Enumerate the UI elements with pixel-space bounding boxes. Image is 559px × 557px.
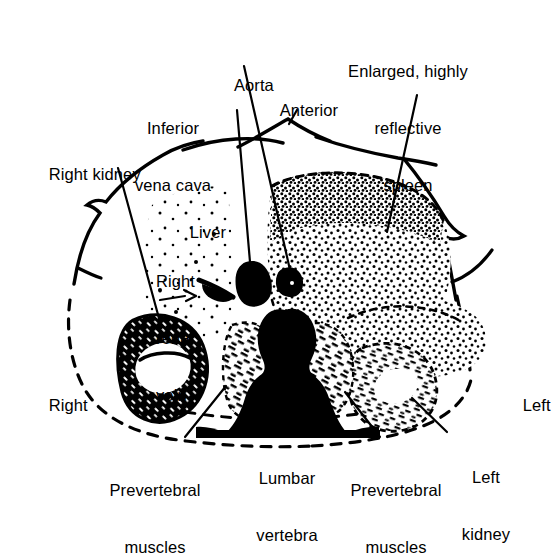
label-prevertebral-muscles-left: Prevertebral muscles bbox=[93, 443, 217, 557]
label-spleen-line1: Enlarged, highly bbox=[331, 62, 485, 81]
label-pvm-left-line1: Prevertebral bbox=[93, 481, 217, 500]
label-right-kidney: Right kidney bbox=[30, 146, 160, 203]
label-rrv-line3: vein bbox=[156, 386, 242, 405]
label-ivc-line1: Inferior bbox=[108, 119, 238, 138]
label-spleen-line2: reflective bbox=[331, 119, 485, 138]
label-lumbar-line2: vertebra bbox=[241, 526, 333, 545]
label-right-renal-vein: Right renal vein bbox=[156, 234, 242, 443]
label-spleen-line3: spleen bbox=[331, 176, 485, 195]
label-rrv-line2: renal bbox=[156, 329, 242, 348]
label-left-kidney-line2: kidney bbox=[440, 525, 532, 544]
label-lumbar-line1: Lumbar bbox=[241, 469, 333, 488]
label-lumbar-vertebra: Lumbar vertebra bbox=[241, 431, 333, 557]
label-left-kidney: Left kidney bbox=[440, 430, 532, 557]
label-right-orientation: Right bbox=[30, 377, 100, 434]
label-left-kidney-line1: Left bbox=[440, 468, 532, 487]
label-spleen: Enlarged, highly reflective spleen bbox=[331, 24, 485, 233]
label-left-orientation: Left bbox=[504, 377, 559, 434]
label-rrv-line1: Right bbox=[156, 272, 242, 291]
label-pvm-left-line2: muscles bbox=[93, 538, 217, 557]
